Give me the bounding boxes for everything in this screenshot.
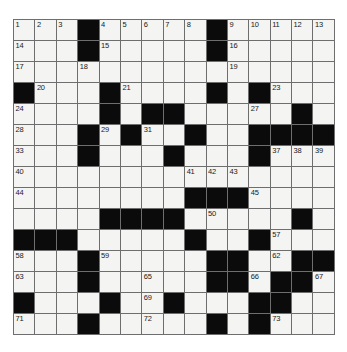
grid-open-cell[interactable]: 11 [271,20,292,41]
grid-open-cell[interactable] [292,188,313,209]
grid-open-cell[interactable]: 65 [142,272,163,293]
grid-open-cell[interactable] [228,293,249,314]
grid-open-cell[interactable] [292,314,313,335]
grid-open-cell[interactable] [271,41,292,62]
grid-open-cell[interactable]: 57 [271,230,292,251]
grid-open-cell[interactable] [313,209,334,230]
grid-open-cell[interactable]: 69 [142,293,163,314]
grid-open-cell[interactable]: 9 [228,20,249,41]
grid-open-cell[interactable] [249,209,270,230]
grid-open-cell[interactable] [164,314,185,335]
grid-open-cell[interactable] [121,104,142,125]
grid-open-cell[interactable] [14,209,35,230]
grid-open-cell[interactable]: 63 [14,272,35,293]
grid-open-cell[interactable] [271,104,292,125]
grid-open-cell[interactable]: 73 [271,314,292,335]
grid-open-cell[interactable] [35,167,56,188]
grid-open-cell[interactable] [271,188,292,209]
grid-open-cell[interactable] [121,167,142,188]
grid-open-cell[interactable]: 66 [249,272,270,293]
grid-open-cell[interactable] [228,83,249,104]
grid-open-cell[interactable] [313,188,334,209]
grid-open-cell[interactable] [121,62,142,83]
grid-open-cell[interactable] [185,62,206,83]
grid-open-cell[interactable] [249,41,270,62]
grid-open-cell[interactable]: 17 [14,62,35,83]
grid-open-cell[interactable]: 1 [14,20,35,41]
grid-open-cell[interactable] [100,314,121,335]
grid-open-cell[interactable] [313,230,334,251]
grid-open-cell[interactable] [121,230,142,251]
grid-open-cell[interactable] [164,188,185,209]
grid-open-cell[interactable] [35,62,56,83]
grid-open-cell[interactable] [35,125,56,146]
grid-open-cell[interactable] [313,62,334,83]
grid-open-cell[interactable] [228,230,249,251]
grid-open-cell[interactable] [100,62,121,83]
grid-open-cell[interactable]: 67 [313,272,334,293]
grid-open-cell[interactable]: 41 [185,167,206,188]
grid-open-cell[interactable] [292,230,313,251]
grid-open-cell[interactable] [207,293,228,314]
grid-open-cell[interactable] [228,125,249,146]
grid-open-cell[interactable] [292,167,313,188]
grid-open-cell[interactable] [78,104,99,125]
grid-open-cell[interactable]: 62 [271,251,292,272]
grid-open-cell[interactable] [57,251,78,272]
grid-open-cell[interactable] [185,41,206,62]
grid-open-cell[interactable] [121,272,142,293]
grid-open-cell[interactable] [313,104,334,125]
grid-open-cell[interactable]: 18 [78,62,99,83]
grid-open-cell[interactable] [164,41,185,62]
grid-open-cell[interactable] [57,125,78,146]
grid-open-cell[interactable]: 2 [35,20,56,41]
grid-open-cell[interactable]: 50 [207,209,228,230]
grid-open-cell[interactable]: 14 [14,41,35,62]
grid-open-cell[interactable] [292,62,313,83]
grid-open-cell[interactable] [121,314,142,335]
grid-open-cell[interactable] [185,314,206,335]
grid-open-cell[interactable]: 16 [228,41,249,62]
grid-open-cell[interactable]: 37 [271,146,292,167]
grid-open-cell[interactable] [185,209,206,230]
grid-open-cell[interactable] [207,125,228,146]
grid-open-cell[interactable]: 23 [271,83,292,104]
grid-open-cell[interactable]: 38 [292,146,313,167]
grid-open-cell[interactable]: 4 [100,20,121,41]
grid-open-cell[interactable] [35,293,56,314]
grid-open-cell[interactable]: 3 [57,20,78,41]
grid-open-cell[interactable] [57,41,78,62]
grid-open-cell[interactable] [185,272,206,293]
grid-open-cell[interactable]: 8 [185,20,206,41]
grid-open-cell[interactable] [121,146,142,167]
grid-open-cell[interactable] [228,104,249,125]
grid-open-cell[interactable] [57,188,78,209]
grid-open-cell[interactable] [78,83,99,104]
grid-open-cell[interactable] [185,104,206,125]
grid-open-cell[interactable] [78,230,99,251]
grid-open-cell[interactable] [164,272,185,293]
grid-open-cell[interactable] [313,314,334,335]
grid-open-cell[interactable] [100,272,121,293]
grid-open-cell[interactable]: 24 [14,104,35,125]
grid-open-cell[interactable]: 19 [228,62,249,83]
grid-open-cell[interactable] [121,251,142,272]
grid-open-cell[interactable]: 33 [14,146,35,167]
grid-open-cell[interactable] [313,293,334,314]
grid-open-cell[interactable] [249,251,270,272]
crossword-grid[interactable]: 1234567891011121314151617181920212324272… [13,19,335,335]
grid-open-cell[interactable] [142,167,163,188]
grid-open-cell[interactable] [121,188,142,209]
grid-open-cell[interactable] [57,146,78,167]
grid-open-cell[interactable] [35,146,56,167]
grid-open-cell[interactable] [57,272,78,293]
grid-open-cell[interactable] [78,188,99,209]
grid-open-cell[interactable] [57,314,78,335]
grid-open-cell[interactable] [164,251,185,272]
grid-open-cell[interactable] [78,293,99,314]
grid-open-cell[interactable] [164,62,185,83]
grid-open-cell[interactable]: 13 [313,20,334,41]
grid-open-cell[interactable] [100,146,121,167]
grid-open-cell[interactable] [228,314,249,335]
grid-open-cell[interactable] [185,146,206,167]
